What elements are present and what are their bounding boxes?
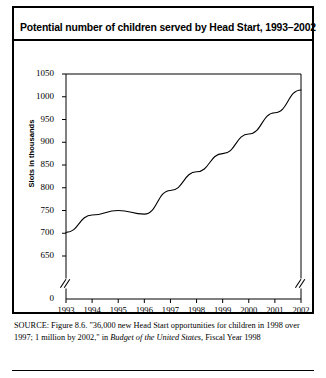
chart-plot-area: Slots in thousands 650700750800850900950…	[14, 41, 312, 314]
data-line-series	[66, 90, 301, 232]
source-note: SOURCE: Figure 8.6. "36,000 new Head Sta…	[14, 320, 314, 344]
axis-break-marks	[60, 279, 304, 289]
figure-title: Potential number of children served by H…	[20, 22, 310, 33]
top-edge-artifact-text	[14, 0, 134, 5]
source-text-part2: Fiscal Year 1998	[203, 333, 261, 342]
axis-ticks	[62, 74, 301, 303]
source-label: SOURCE:	[14, 321, 49, 330]
source-publication-title: Budget of the United States,	[110, 333, 203, 342]
plot-frame	[66, 74, 301, 299]
figure-frame: Potential number of children served by H…	[12, 6, 314, 314]
bottom-divider	[12, 370, 314, 371]
chart-svg	[14, 41, 312, 314]
